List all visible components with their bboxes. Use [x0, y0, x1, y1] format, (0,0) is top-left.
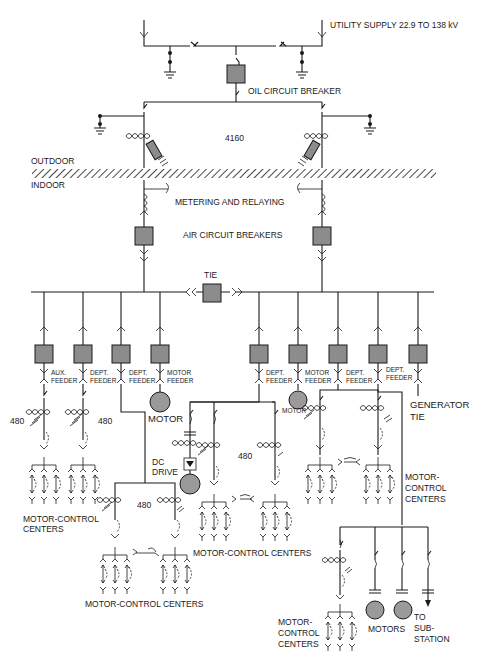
mcc-label: MOTOR-	[278, 617, 312, 627]
mcc-label: MOTOR-	[405, 472, 439, 482]
feeder-label: DEPT.	[90, 369, 109, 376]
metering-section: METERING AND RELAYING AIR CIRCUIT BREAKE…	[135, 180, 331, 292]
air-breakers-label: AIR CIRCUIT BREAKERS	[183, 230, 283, 240]
mcc-label: CENTERS	[405, 494, 446, 504]
outdoor-label: OUTDOOR	[31, 156, 74, 166]
voltage-480-label: 480	[238, 451, 252, 461]
generator-tie-label: GENERATOR	[410, 399, 469, 410]
mcc-label: CONTROL	[278, 628, 320, 638]
oil-breaker-label: OIL CIRCUIT BREAKER	[248, 86, 341, 96]
primary-feeders: 4160	[94, 102, 376, 168]
metering-label: METERING AND RELAYING	[175, 197, 284, 207]
feeder-label: FEEDER	[346, 377, 373, 384]
motors-label: MOTORS	[368, 624, 405, 634]
feeder-breakers: AUX. FEEDER DEPT. FEEDER DEPT. FEEDER MO…	[35, 292, 427, 384]
transformer-icon	[126, 134, 150, 139]
generator-tie-and-lower-right: GENERATOR TIE MOTOR- CONTROL CENTERS MOT…	[278, 384, 469, 651]
to-substation-label: SUB-	[414, 623, 434, 633]
voltage-480-label: 480	[10, 416, 24, 426]
feeder-label: FEEDER	[51, 377, 78, 384]
generator-tie-label: TIE	[410, 411, 425, 422]
motor-label: MOTOR	[148, 413, 183, 424]
one-line-diagram: UTILITY SUPPLY 22.9 TO 138 kV OIL CIRCUI…	[0, 0, 478, 664]
outdoor-indoor-boundary: OUTDOOR INDOOR	[31, 156, 436, 190]
motor-icon	[394, 601, 412, 619]
oil-breaker-icon	[227, 65, 245, 83]
mcc-label: CENTERS	[23, 524, 64, 534]
mcc-label: CONTROL	[405, 483, 447, 493]
main-bus: TIE	[31, 270, 434, 302]
air-breaker-left-icon	[135, 227, 153, 245]
motor-icon	[366, 601, 384, 619]
motor-icon	[150, 392, 170, 412]
feeder-label: FEEDER	[129, 377, 156, 384]
mcc-label: MOTOR-CONTROL CENTERS	[85, 599, 204, 609]
to-substation-label: TO	[414, 612, 426, 622]
mcc-label: CENTERS	[278, 639, 319, 649]
dc-drive-motor-icon	[180, 474, 200, 494]
feeder-label: FEEDER	[266, 377, 293, 384]
utility-incoming: UTILITY SUPPLY 22.9 TO 138 kV OIL CIRCUI…	[140, 20, 459, 102]
utility-supply-label: UTILITY SUPPLY 22.9 TO 138 kV	[330, 20, 459, 30]
voltage-4160-label: 4160	[225, 133, 244, 143]
tie-breaker-icon	[203, 284, 221, 302]
to-substation-label: STATION	[414, 634, 450, 644]
dc-drive-label: DRIVE	[152, 467, 178, 477]
voltage-480-label: 480	[98, 416, 112, 426]
feeder-label: FEEDER	[167, 377, 194, 384]
feeder-label: DEPT.	[266, 369, 285, 376]
feeder-label: DEPT.	[346, 369, 365, 376]
air-breaker-right-icon	[313, 227, 331, 245]
feeder-label: MOTOR	[167, 369, 191, 376]
feeder-label: FEEDER	[90, 377, 117, 384]
voltage-480-label: 480	[137, 500, 151, 510]
left-substations: 480 480 MOTOR-CONTROL CENTERS	[10, 384, 112, 534]
feeder-label: AUX.	[51, 369, 66, 376]
motor-label: MOTOR	[282, 407, 306, 414]
mcc-label: MOTOR-CONTROL	[23, 514, 99, 524]
feeder-label: FEEDER	[386, 374, 413, 381]
dc-drive-label: DC	[152, 457, 164, 467]
arrow-down-icon	[425, 600, 431, 607]
indoor-label: INDOOR	[31, 180, 65, 190]
feeder-label: MOTOR	[305, 369, 329, 376]
mcc-label: MOTOR-CONTROL CENTERS	[193, 548, 312, 558]
feeder-label: FEEDER	[305, 377, 332, 384]
feeder-label: DEPT.	[386, 366, 405, 373]
feeder-label: DEPT.	[129, 369, 148, 376]
tie-label: TIE	[204, 270, 218, 280]
motor-feeder: MOTOR	[148, 384, 183, 424]
